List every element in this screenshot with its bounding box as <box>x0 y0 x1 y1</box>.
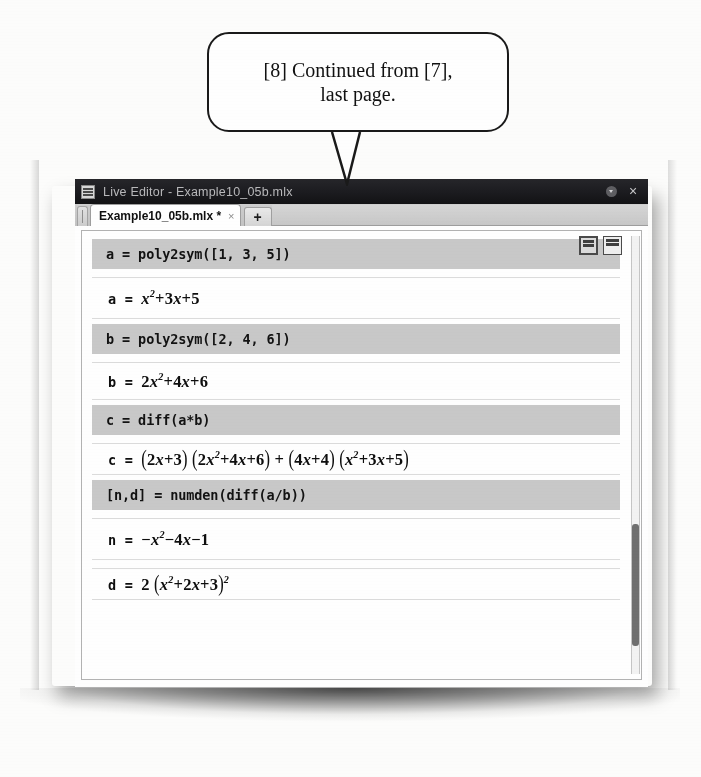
code-line[interactable]: [n,d] = numden(diff(a/b)) <box>92 480 620 510</box>
output-equation: a = x2+3x+5 <box>108 288 200 309</box>
tab-example10-05b[interactable]: Example10_05b.mlx * × <box>90 204 241 226</box>
annotation-callout-tail <box>330 130 366 186</box>
tab-close-icon[interactable]: × <box>228 210 234 222</box>
output-equation: n = −x2−4x−1 <box>108 529 209 550</box>
document-area: a = poly2sym([1, 3, 5])a = x2+3x+5b = po… <box>75 226 648 687</box>
document-toolbar <box>579 236 622 255</box>
scrollbar-thumb[interactable] <box>632 524 639 646</box>
annotation-callout-text: [8] Continued from [7], last page. <box>250 58 467 107</box>
output-line: d = 2 (x2+2x+3)2 <box>92 568 620 600</box>
live-editor-window: Live Editor - Example10_05b.mlx × Exampl… <box>75 179 648 687</box>
live-script-content: a = poly2sym([1, 3, 5])a = x2+3x+5b = po… <box>92 239 620 600</box>
output-equation: b = 2x2+4x+6 <box>108 371 208 392</box>
row-spacer <box>92 354 620 362</box>
row-spacer <box>92 510 620 518</box>
chevron-down-icon[interactable] <box>600 179 622 204</box>
row-spacer <box>92 269 620 277</box>
tab-strip-filler <box>272 205 648 226</box>
page-edge-left <box>30 160 39 690</box>
matlab-app-icon <box>81 185 95 199</box>
page-bottom-shadow <box>20 688 680 734</box>
output-line: a = x2+3x+5 <box>92 277 620 319</box>
page-edge-right <box>668 160 677 690</box>
output-line: b = 2x2+4x+6 <box>92 362 620 400</box>
layout-icon[interactable] <box>603 236 622 255</box>
tab-label: Example10_05b.mlx * <box>99 209 221 223</box>
annotation-callout: [8] Continued from [7], last page. <box>207 32 509 132</box>
row-spacer <box>92 435 620 443</box>
code-line[interactable]: b = poly2sym([2, 4, 6]) <box>92 324 620 354</box>
document-scrollbar[interactable] <box>631 236 640 674</box>
output-equation: c = (2x+3) (2x2+4x+6) + (4x+4) (x2+3x+5) <box>108 449 409 470</box>
new-tab-button[interactable]: + <box>244 207 272 226</box>
output-equation: d = 2 (x2+2x+3)2 <box>108 574 229 595</box>
tab-strip: Example10_05b.mlx * × + <box>75 204 648 226</box>
code-line[interactable]: c = diff(a*b) <box>92 405 620 435</box>
output-line: n = −x2−4x−1 <box>92 518 620 560</box>
output-line: c = (2x+3) (2x2+4x+6) + (4x+4) (x2+3x+5) <box>92 443 620 475</box>
row-spacer <box>92 560 620 568</box>
code-line[interactable]: a = poly2sym([1, 3, 5]) <box>92 239 620 269</box>
save-icon[interactable] <box>579 236 598 255</box>
tab-strip-handle[interactable] <box>77 206 88 226</box>
window-title: Live Editor - Example10_05b.mlx <box>103 185 600 199</box>
close-icon[interactable]: × <box>622 179 644 204</box>
